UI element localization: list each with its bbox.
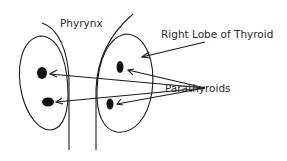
left-thyroid-lobe xyxy=(19,36,68,130)
parathyroids-label: Parathyroids xyxy=(165,83,231,94)
parathyroid-right-lower xyxy=(107,99,114,110)
parathyroid-left-lower xyxy=(42,98,54,107)
pharynx-left-edge xyxy=(42,23,69,150)
parathyroid-right-upper xyxy=(117,61,124,73)
pharynx-label: Phyrynx xyxy=(60,18,103,29)
diagram-canvas xyxy=(0,0,287,161)
parathyroid-left-upper xyxy=(37,67,47,79)
arrow-right-lobe xyxy=(142,42,205,57)
right-lobe-label: Right Lobe of Thyroid xyxy=(161,29,273,40)
